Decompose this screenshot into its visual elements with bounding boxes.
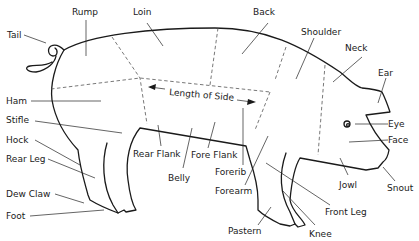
- label-pastern: Pastern: [228, 226, 262, 236]
- label-fore-flank: Fore Flank: [191, 150, 238, 160]
- label-stifle: Stifle: [6, 115, 29, 125]
- label-shoulder: Shoulder: [301, 27, 341, 37]
- label-rear-flank: Rear Flank: [133, 149, 181, 159]
- label-back: Back: [253, 7, 276, 17]
- label-tail: Tail: [6, 30, 22, 40]
- label-length-of-side: Length of Side: [169, 87, 235, 103]
- label-loin: Loin: [133, 7, 152, 17]
- label-neck: Neck: [345, 43, 368, 53]
- label-jowl: Jowl: [338, 180, 357, 190]
- pig-anatomy-diagram: Tail Rump Loin Back Shoulder Neck Ear Ey…: [0, 0, 419, 241]
- pig-diagram-svg: Tail Rump Loin Back Shoulder Neck Ear Ey…: [0, 0, 419, 241]
- label-forearm: Forearm: [215, 186, 252, 196]
- label-hock: Hock: [6, 135, 29, 145]
- label-eye: Eye: [388, 119, 405, 129]
- label-foot: Foot: [6, 211, 26, 221]
- leader-lines: [24, 20, 395, 225]
- label-belly: Belly: [168, 173, 191, 183]
- label-snout: Snout: [387, 183, 414, 193]
- label-forerib: Forerib: [215, 167, 247, 177]
- label-front-leg: Front Leg: [325, 207, 367, 217]
- label-rump: Rump: [72, 7, 98, 17]
- label-knee: Knee: [309, 229, 332, 239]
- label-rear-leg: Rear Leg: [6, 154, 46, 164]
- label-dew-claw: Dew Claw: [6, 189, 50, 199]
- label-face: Face: [388, 135, 409, 145]
- label-ham: Ham: [6, 96, 27, 106]
- labels: Tail Rump Loin Back Shoulder Neck Ear Ey…: [6, 7, 414, 239]
- label-ear: Ear: [378, 68, 393, 78]
